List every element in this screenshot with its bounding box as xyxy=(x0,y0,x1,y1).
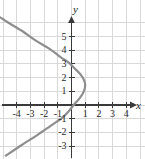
x-tick-label: 3 xyxy=(110,109,115,119)
parabola-curve xyxy=(0,17,85,155)
x-axis xyxy=(2,102,137,109)
y-tick-label: -2 xyxy=(58,127,66,137)
x-tick-label: -3 xyxy=(26,109,34,119)
y-tick-label: 3 xyxy=(62,59,67,69)
y-tick-label: -1 xyxy=(58,114,66,124)
x-tick-label: 4 xyxy=(124,109,129,119)
x-tick-label: -2 xyxy=(40,109,48,119)
y-tick-label: 1 xyxy=(62,86,67,96)
graph-figure: -4-3-2-11234 -3-2-112345 x y xyxy=(0,0,145,159)
y-axis-label: y xyxy=(73,4,78,15)
x-tick-label: 1 xyxy=(83,109,88,119)
x-axis-label: x xyxy=(136,100,141,111)
x-tick-label: -4 xyxy=(13,109,21,119)
y-tick-label: -3 xyxy=(58,141,66,151)
y-tick-label: 5 xyxy=(62,32,67,42)
y-tick-label: 2 xyxy=(62,73,67,83)
x-tick-label: 2 xyxy=(96,109,101,119)
y-tick-label: 4 xyxy=(62,45,67,55)
coordinate-plane xyxy=(0,0,145,159)
y-axis xyxy=(68,16,75,158)
